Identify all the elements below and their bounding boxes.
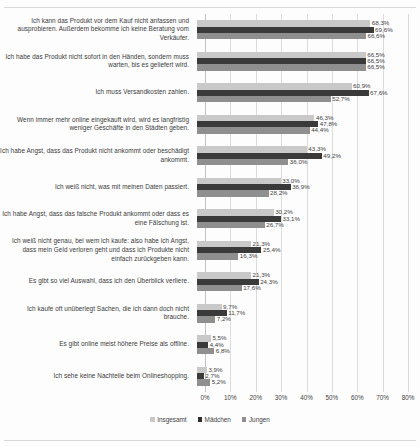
x-tick-label-0: 0%	[200, 394, 209, 401]
legend-label: Insgesamt	[157, 416, 186, 423]
bar-group: 43,3%49,2%36,0%	[197, 140, 412, 172]
chart-legend: InsgesamtMädchenJungen	[0, 416, 420, 423]
bar-group: 3,9%2,7%5,2%	[197, 361, 412, 393]
category-label: Ich muss Versandkosten zahlen.	[0, 88, 197, 97]
bar-line-jungen: 52,7%	[197, 96, 412, 102]
category-row: Ich weiß nicht, was mit meinen Daten pas…	[0, 172, 420, 204]
bar-group: 30,2%33,1%26,7%	[197, 203, 412, 235]
bar-line-jungen: 36,0%	[197, 159, 412, 165]
bar-jungen[interactable]	[197, 316, 215, 322]
legend-item-jungen[interactable]: Jungen	[242, 416, 270, 423]
legend-swatch-icon	[150, 417, 155, 422]
bar-value-label: 44,4%	[311, 127, 329, 133]
bar-jungen[interactable]	[197, 285, 242, 291]
bar-jungen[interactable]	[197, 348, 214, 354]
category-label: Ich kaufe oft unüberlegt Sachen, die ich…	[0, 305, 197, 322]
category-label: Es gibt so viel Auswahl, dass ich den Üb…	[0, 277, 197, 286]
bar-value-label: 7,2%	[217, 316, 231, 322]
category-label: Ich weiß nicht genau, bei wem ich kaufe:…	[0, 237, 197, 263]
bar-chart-figure: Ich kann das Produkt vor dem Kauf nicht …	[0, 0, 420, 447]
x-tick-label-30: 30%	[275, 394, 288, 401]
bar-jungen[interactable]	[197, 33, 366, 39]
bar-line-jungen: 6,8%	[197, 348, 412, 354]
bar-jungen[interactable]	[197, 127, 310, 133]
x-tick-label-50: 50%	[326, 394, 339, 401]
legend-swatch-icon	[198, 417, 203, 422]
x-tick-label-60: 60%	[351, 394, 364, 401]
x-tick-label-70: 70%	[376, 394, 389, 401]
bar-value-label: 6,8%	[216, 348, 230, 354]
bar-jungen[interactable]	[197, 222, 265, 228]
legend-swatch-icon	[242, 417, 247, 422]
bar-value-label: 66,6%	[367, 33, 385, 39]
legend-label: Mädchen	[205, 416, 231, 423]
bar-line-jungen: 66,5%	[197, 64, 412, 70]
category-label: Ich habe das Produkt nicht sofort in den…	[0, 53, 197, 70]
bar-jungen[interactable]	[197, 64, 366, 70]
bar-jungen[interactable]	[197, 253, 238, 259]
category-label: Es gibt online meist höhere Preise als o…	[0, 340, 197, 349]
bar-group: 60,9%67,6%52,7%	[197, 77, 412, 109]
bar-value-label: 36,0%	[290, 159, 308, 165]
bar-group: 46,3%47,8%44,4%	[197, 109, 412, 141]
category-row: Ich habe Angst, dass das falsche Produkt…	[0, 203, 420, 235]
bar-jungen[interactable]	[197, 379, 210, 385]
plot-area: Ich kann das Produkt vor dem Kauf nicht …	[0, 14, 420, 394]
bar-line-jungen: 44,4%	[197, 127, 412, 133]
category-label: Ich habe Angst, dass das Produkt nicht a…	[0, 147, 197, 164]
bar-group: 68,3%69,6%66,6%	[197, 14, 412, 46]
category-row: Ich weiß nicht genau, bei wem ich kaufe:…	[0, 235, 420, 267]
bar-value-label: 5,2%	[212, 379, 226, 385]
bar-group: 33,0%36,9%28,2%	[197, 172, 412, 204]
bar-jungen[interactable]	[197, 190, 269, 196]
legend-label: Jungen	[249, 416, 270, 423]
category-row: Ich habe das Produkt nicht sofort in den…	[0, 46, 420, 78]
category-row: Es gibt online meist höhere Preise als o…	[0, 329, 420, 361]
category-row: Ich kann das Produkt vor dem Kauf nicht …	[0, 14, 420, 46]
bar-line-jungen: 7,2%	[197, 316, 412, 322]
figure-bottom-border	[4, 440, 416, 441]
bar-line-jungen: 66,6%	[197, 33, 412, 39]
bar-line-jungen: 26,7%	[197, 222, 412, 228]
bar-jungen[interactable]	[197, 159, 288, 165]
category-row: Ich kaufe oft unüberlegt Sachen, die ich…	[0, 298, 420, 330]
bar-value-label: 28,2%	[270, 190, 288, 196]
legend-item-mädchen[interactable]: Mädchen	[198, 416, 231, 423]
bar-value-label: 52,7%	[332, 96, 350, 102]
bar-line-jungen: 5,2%	[197, 379, 412, 385]
category-row: Wenn immer mehr online eingekauft wird, …	[0, 109, 420, 141]
category-label: Ich habe Angst, dass das falsche Produkt…	[0, 210, 197, 227]
category-row: Es gibt so viel Auswahl, dass ich den Üb…	[0, 266, 420, 298]
legend-item-insgesamt[interactable]: Insgesamt	[150, 416, 186, 423]
bar-line-jungen: 28,2%	[197, 190, 412, 196]
x-tick-label-40: 40%	[300, 394, 313, 401]
category-rows: Ich kann das Produkt vor dem Kauf nicht …	[0, 14, 420, 392]
bar-group: 5,5%4,4%6,8%	[197, 329, 412, 361]
category-row: Ich sehe keine Nachteile beim Onlineshop…	[0, 361, 420, 393]
bar-value-label: 16,3%	[240, 253, 258, 259]
bar-group: 21,3%24,3%17,6%	[197, 266, 412, 298]
bar-line-jungen: 17,6%	[197, 285, 412, 291]
category-label: Ich weiß nicht, was mit meinen Daten pas…	[0, 183, 197, 192]
x-tick-label-20: 20%	[249, 394, 262, 401]
bar-line-jungen: 16,3%	[197, 253, 412, 259]
category-label: Wenn immer mehr online eingekauft wird, …	[0, 116, 197, 133]
bar-value-label: 66,5%	[367, 64, 385, 70]
bar-group: 21,3%25,4%16,3%	[197, 235, 412, 267]
bar-group: 66,5%66,5%66,5%	[197, 46, 412, 78]
bar-value-label: 26,7%	[266, 222, 284, 228]
x-tick-label-10: 10%	[224, 394, 237, 401]
category-label: Ich sehe keine Nachteile beim Onlineshop…	[0, 372, 197, 381]
figure-top-border	[4, 7, 416, 8]
x-tick-label-80: 80%	[402, 394, 415, 401]
category-row: Ich habe Angst, dass das Produkt nicht a…	[0, 140, 420, 172]
category-row: Ich muss Versandkosten zahlen.60,9%67,6%…	[0, 77, 420, 109]
x-axis: 0%10%20%30%40%50%60%70%80%	[205, 394, 408, 406]
bar-jungen[interactable]	[197, 96, 331, 102]
bar-value-label: 17,6%	[243, 285, 261, 291]
bar-group: 9,7%11,7%7,2%	[197, 298, 412, 330]
category-label: Ich kann das Produkt vor dem Kauf nicht …	[0, 17, 197, 43]
